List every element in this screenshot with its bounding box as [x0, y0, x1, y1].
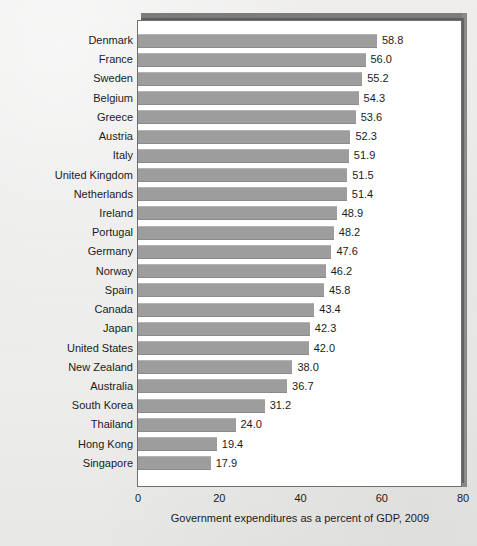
bar-row: 38.0 [138, 358, 461, 377]
bar [138, 379, 287, 393]
bar [138, 149, 349, 163]
bar-value-label: 51.9 [354, 147, 375, 164]
plot-area: 58.856.055.254.353.652.351.951.551.448.9… [138, 21, 461, 486]
bar-value-label: 56.0 [371, 51, 392, 68]
bar-row: 24.0 [138, 415, 461, 434]
bar-row: 46.2 [138, 262, 461, 281]
bar-row: 55.2 [138, 69, 461, 88]
bar-value-label: 47.6 [336, 243, 357, 260]
bar-value-label: 51.5 [352, 167, 373, 184]
bar [138, 283, 324, 297]
category-label: Germany [0, 242, 133, 261]
bar-row: 36.7 [138, 377, 461, 396]
bar-row: 43.4 [138, 300, 461, 319]
bar-value-label: 17.9 [216, 455, 237, 472]
bar [138, 34, 377, 48]
bar-row: 48.2 [138, 223, 461, 242]
x-axis-title: Government expenditures as a percent of … [171, 512, 429, 524]
bar [138, 437, 217, 451]
category-label: Portugal [0, 223, 133, 242]
bar-value-label: 46.2 [331, 263, 352, 280]
bar-chart-panel: 58.856.055.254.353.652.351.951.551.448.9… [137, 20, 462, 487]
bar-value-label: 42.3 [315, 320, 336, 337]
bar [138, 72, 362, 86]
bar-value-label: 36.7 [292, 378, 313, 395]
x-tick-label: 0 [135, 492, 141, 504]
bar-value-label: 55.2 [367, 70, 388, 87]
bar-value-label: 19.4 [222, 436, 243, 453]
category-label: United Kingdom [0, 166, 133, 185]
bar [138, 341, 309, 355]
x-tick-label: 60 [376, 492, 388, 504]
bar-row: 42.0 [138, 339, 461, 358]
bar-row: 58.8 [138, 31, 461, 50]
bar-value-label: 24.0 [241, 416, 262, 433]
bar [138, 399, 265, 413]
chart-panel-shadow-top [141, 13, 466, 20]
bar [138, 206, 337, 220]
bar-value-label: 42.0 [314, 340, 335, 357]
category-label: Canada [0, 300, 133, 319]
bar-value-label: 53.6 [361, 109, 382, 126]
bar-value-label: 58.8 [382, 32, 403, 49]
category-label: Sweden [0, 69, 133, 88]
bar [138, 456, 211, 470]
bar-row: 54.3 [138, 89, 461, 108]
bar-row: 17.9 [138, 454, 461, 473]
category-label: Italy [0, 146, 133, 165]
bar [138, 264, 326, 278]
bar [138, 53, 366, 67]
bar [138, 418, 236, 432]
bar-row: 45.8 [138, 281, 461, 300]
bar-row: 42.3 [138, 319, 461, 338]
bar-value-label: 48.9 [342, 205, 363, 222]
bar [138, 245, 331, 259]
category-label: France [0, 50, 133, 69]
bar-value-label: 51.4 [352, 186, 373, 203]
category-label: Singapore [0, 454, 133, 473]
bar-row: 51.5 [138, 166, 461, 185]
category-label: Hong Kong [0, 435, 133, 454]
bar-row: 52.3 [138, 127, 461, 146]
x-tick-label: 20 [213, 492, 225, 504]
bar [138, 322, 310, 336]
category-label: South Korea [0, 396, 133, 415]
bar-row: 48.9 [138, 204, 461, 223]
category-label: Norway [0, 262, 133, 281]
bar-value-label: 31.2 [270, 397, 291, 414]
bar-row: 53.6 [138, 108, 461, 127]
bar [138, 360, 292, 374]
x-axis: 020406080 Government expenditures as a p… [137, 487, 463, 546]
bar-row: 51.9 [138, 146, 461, 165]
bar [138, 110, 356, 124]
bar [138, 187, 347, 201]
category-label: New Zealand [0, 358, 133, 377]
bar-row: 47.6 [138, 242, 461, 261]
category-label: Japan [0, 319, 133, 338]
bar [138, 168, 347, 182]
bar-row: 31.2 [138, 396, 461, 415]
bar-row: 51.4 [138, 185, 461, 204]
bar-row: 19.4 [138, 435, 461, 454]
category-label: United States [0, 339, 133, 358]
category-label: Denmark [0, 31, 133, 50]
bar-value-label: 48.2 [339, 224, 360, 241]
bar [138, 130, 350, 144]
chart-panel-shadow-right [462, 13, 467, 487]
category-label: Belgium [0, 89, 133, 108]
bar [138, 226, 334, 240]
bar-value-label: 45.8 [329, 282, 350, 299]
category-label: Ireland [0, 204, 133, 223]
category-label: Netherlands [0, 185, 133, 204]
x-tick-label: 40 [294, 492, 306, 504]
bar-value-label: 38.0 [297, 359, 318, 376]
category-label: Austria [0, 127, 133, 146]
bar-value-label: 43.4 [319, 301, 340, 318]
category-label: Spain [0, 281, 133, 300]
category-label: Australia [0, 377, 133, 396]
bar-row: 56.0 [138, 50, 461, 69]
category-label: Thailand [0, 415, 133, 434]
category-label: Greece [0, 108, 133, 127]
bar [138, 303, 314, 317]
bar-value-label: 52.3 [355, 128, 376, 145]
